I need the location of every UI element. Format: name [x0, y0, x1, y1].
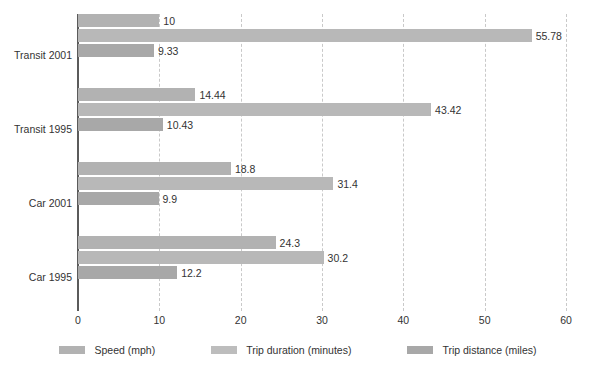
- bar-value-label: 55.78: [532, 30, 562, 42]
- bar-group-car-2001: 18.8 31.4 9.9: [78, 162, 566, 205]
- bar-group-car-1995: 24.3 30.2 12.2: [78, 236, 566, 279]
- x-axis-tick-label: 30: [316, 314, 328, 326]
- bar-row: 10.43: [78, 118, 566, 131]
- bar-speed[interactable]: [78, 162, 231, 175]
- bar-row: 12.2: [78, 266, 566, 279]
- x-axis-tick-label: 40: [397, 314, 409, 326]
- bar-row: 31.4: [78, 177, 566, 190]
- chart-legend: Speed (mph) Trip duration (minutes) Trip…: [0, 344, 596, 356]
- x-axis-tick-label: 20: [235, 314, 247, 326]
- bar-speed[interactable]: [78, 14, 159, 27]
- x-axis-tick-label: 10: [153, 314, 165, 326]
- bar-value-label: 43.42: [431, 104, 461, 116]
- legend-swatch-icon: [59, 346, 85, 354]
- bar-trip-duration[interactable]: [78, 29, 532, 42]
- x-axis-tick-label: 0: [75, 314, 81, 326]
- bar-row: 9.33: [78, 44, 566, 57]
- x-axis-tick-labels: 0 10 20 30 40 50 60: [78, 311, 566, 331]
- x-axis-tick-label: 60: [560, 314, 572, 326]
- bar-value-label: 9.33: [154, 45, 178, 57]
- bar-row: 43.42: [78, 103, 566, 116]
- bar-value-label: 30.2: [324, 252, 348, 264]
- bar-value-label: 18.8: [231, 163, 255, 175]
- bar-value-label: 14.44: [195, 89, 225, 101]
- bar-row: 14.44: [78, 88, 566, 101]
- bar-value-label: 24.3: [276, 237, 300, 249]
- bar-group-transit-1995: 14.44 43.42 10.43: [78, 88, 566, 131]
- bar-trip-duration[interactable]: [78, 251, 324, 264]
- y-axis-tick-label: Transit 2001: [2, 49, 72, 61]
- legend-swatch-icon: [211, 346, 237, 354]
- bar-trip-duration[interactable]: [78, 177, 333, 190]
- legend-item-trip-duration[interactable]: Trip duration (minutes): [211, 344, 351, 356]
- bar-value-label: 12.2: [177, 267, 201, 279]
- bar-row: 9.9: [78, 192, 566, 205]
- bar-trip-distance[interactable]: [78, 44, 154, 57]
- bar-row: 55.78: [78, 29, 566, 42]
- y-axis-tick-labels: Transit 2001 Transit 1995 Car 2001 Car 1…: [0, 14, 72, 311]
- legend-label: Trip duration (minutes): [246, 344, 351, 356]
- y-axis-tick-label: Car 2001: [2, 197, 72, 209]
- bar-value-label: 10: [159, 15, 175, 27]
- bar-group-transit-2001: 10 55.78 9.33: [78, 14, 566, 57]
- bar-speed[interactable]: [78, 236, 276, 249]
- legend-item-trip-distance[interactable]: Trip distance (miles): [407, 344, 536, 356]
- bar-row: 10: [78, 14, 566, 27]
- bar-row: 24.3: [78, 236, 566, 249]
- bar-value-label: 10.43: [163, 119, 193, 131]
- y-axis-tick-label: Car 1995: [2, 271, 72, 283]
- bar-trip-distance[interactable]: [78, 192, 159, 205]
- bar-speed[interactable]: [78, 88, 195, 101]
- bar-chart: Transit 2001 Transit 1995 Car 2001 Car 1…: [0, 0, 596, 380]
- bar-trip-duration[interactable]: [78, 103, 431, 116]
- plot-area: 10 55.78 9.33 14.44 43.42 10.: [78, 14, 566, 311]
- legend-label: Trip distance (miles): [442, 344, 536, 356]
- bar-value-label: 9.9: [159, 193, 178, 205]
- bar-row: 30.2: [78, 251, 566, 264]
- legend-item-speed[interactable]: Speed (mph): [59, 344, 155, 356]
- legend-label: Speed (mph): [94, 344, 155, 356]
- legend-swatch-icon: [407, 346, 433, 354]
- y-axis-tick-label: Transit 1995: [2, 123, 72, 135]
- bar-value-label: 31.4: [333, 178, 357, 190]
- bar-trip-distance[interactable]: [78, 118, 163, 131]
- x-axis-tick-label: 50: [479, 314, 491, 326]
- bar-row: 18.8: [78, 162, 566, 175]
- gridline-60: [566, 14, 567, 311]
- bar-trip-distance[interactable]: [78, 266, 177, 279]
